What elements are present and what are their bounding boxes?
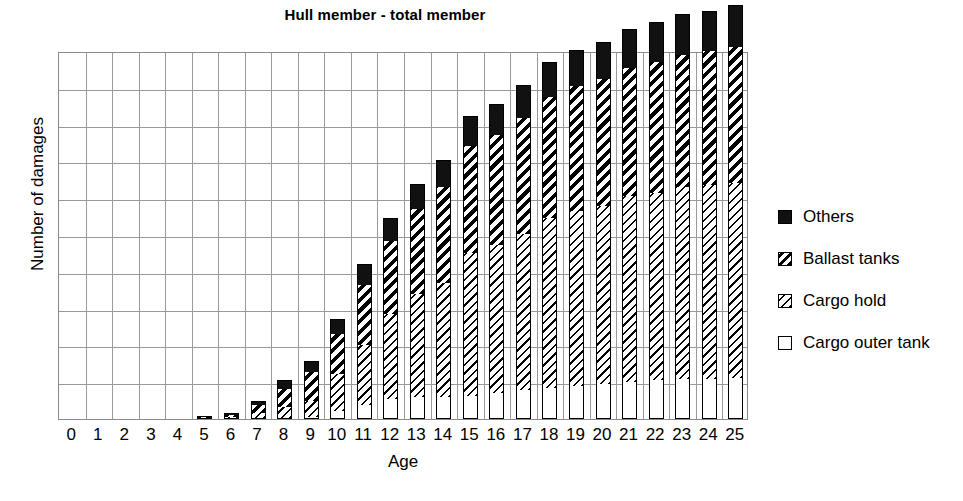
bar-segment-cargo-outer-tank: [463, 396, 478, 419]
bar-segment-cargo-hold: [251, 413, 266, 419]
legend-swatch-icon: [778, 336, 792, 350]
bar-age-8[interactable]: [277, 380, 292, 419]
bar-segment-others: [383, 218, 398, 241]
x-tick-label-0: 0: [58, 424, 85, 446]
bar-age-23[interactable]: [675, 14, 690, 419]
bar-segment-ballast-tanks: [383, 241, 398, 315]
plot-area: [58, 52, 748, 420]
bar-age-21[interactable]: [622, 29, 637, 419]
x-tick-label-2: 2: [111, 424, 138, 446]
bar-segment-cargo-outer-tank: [489, 393, 504, 419]
bar-segment-cargo-hold: [542, 218, 557, 387]
bar-segment-cargo-hold: [728, 183, 743, 378]
x-axis-tick-labels: 0123456789101112131415161718192021222324…: [58, 424, 748, 448]
bar-segment-ballast-tanks: [197, 417, 212, 418]
bar-segment-cargo-hold: [622, 196, 637, 382]
bar-age-15[interactable]: [463, 116, 478, 419]
legend-swatch-icon: [778, 210, 792, 224]
bar-segment-cargo-outer-tank: [728, 378, 743, 419]
bar-segment-cargo-hold: [596, 206, 611, 384]
x-axis-label: Age: [58, 452, 748, 472]
x-tick-label-11: 11: [350, 424, 377, 446]
x-tick-label-10: 10: [323, 424, 350, 446]
bar-age-12[interactable]: [383, 218, 398, 419]
bar-segment-cargo-hold: [277, 407, 292, 419]
bar-age-7[interactable]: [251, 401, 266, 419]
x-tick-label-19: 19: [562, 424, 589, 446]
chart-title: Hull member - total member: [0, 6, 770, 23]
bar-age-24[interactable]: [702, 11, 717, 419]
bar-age-20[interactable]: [596, 42, 611, 419]
bar-segment-others: [596, 42, 611, 79]
bar-segment-others: [569, 50, 584, 86]
bar-segment-others: [489, 104, 504, 135]
bar-segment-ballast-tanks: [357, 285, 372, 346]
bar-age-11[interactable]: [357, 264, 372, 419]
x-tick-label-1: 1: [85, 424, 112, 446]
bar-segment-cargo-outer-tank: [357, 405, 372, 419]
bar-age-6[interactable]: [224, 413, 239, 419]
bar-segment-cargo-outer-tank: [410, 397, 425, 419]
bar-age-10[interactable]: [330, 319, 345, 419]
bar-segment-others: [542, 62, 557, 97]
bar-age-18[interactable]: [542, 62, 557, 419]
legend-item-label: Ballast tanks: [803, 249, 899, 269]
legend-item-cargo-hold[interactable]: Cargo hold: [778, 280, 958, 322]
bar-segment-cargo-hold: [489, 245, 504, 392]
x-tick-label-18: 18: [536, 424, 563, 446]
legend-item-others[interactable]: Others: [778, 196, 958, 238]
bar-age-14[interactable]: [436, 160, 451, 419]
bar-segment-others: [277, 380, 292, 389]
bar-segment-ballast-tanks: [516, 118, 531, 234]
legend-swatch-icon: [778, 294, 792, 308]
x-tick-label-24: 24: [695, 424, 722, 446]
bar-segment-others: [410, 184, 425, 210]
x-tick-label-4: 4: [164, 424, 191, 446]
bar-age-13[interactable]: [410, 183, 425, 419]
x-tick-label-14: 14: [430, 424, 457, 446]
x-tick-label-7: 7: [244, 424, 271, 446]
bar-segment-ballast-tanks: [569, 86, 584, 211]
bar-age-5[interactable]: [197, 416, 212, 419]
bar-segment-cargo-outer-tank: [569, 386, 584, 419]
bar-segment-ballast-tanks: [596, 79, 611, 206]
bar-segment-others: [463, 116, 478, 146]
bar-segment-cargo-hold: [516, 234, 531, 390]
x-tick-label-17: 17: [509, 424, 536, 446]
bar-segment-ballast-tanks: [224, 415, 239, 417]
bar-age-25[interactable]: [728, 5, 743, 419]
legend-item-cargo-outer-tank[interactable]: Cargo outer tank: [778, 322, 958, 364]
bar-segment-cargo-outer-tank: [649, 380, 664, 419]
bar-segment-cargo-hold: [304, 401, 319, 418]
bar-segment-others: [728, 5, 743, 46]
bar-age-9[interactable]: [304, 361, 319, 419]
x-tick-label-21: 21: [615, 424, 642, 446]
bar-segment-cargo-outer-tank: [596, 384, 611, 419]
bar-segment-others: [330, 319, 345, 334]
bar-segment-others: [357, 264, 372, 284]
bar-segment-others: [649, 22, 664, 62]
bar-segment-cargo-outer-tank: [436, 397, 451, 419]
bar-segment-cargo-outer-tank: [304, 417, 319, 419]
legend-item-ballast-tanks[interactable]: Ballast tanks: [778, 238, 958, 280]
bar-age-19[interactable]: [569, 50, 584, 419]
bar-segment-cargo-hold: [383, 314, 398, 399]
bar-segment-cargo-hold: [702, 185, 717, 378]
legend-item-label: Others: [803, 207, 854, 227]
bar-segment-cargo-hold: [357, 345, 372, 405]
bar-segment-ballast-tanks: [251, 405, 266, 413]
bar-segment-ballast-tanks: [542, 97, 557, 218]
bar-segment-cargo-hold: [463, 253, 478, 397]
x-tick-label-13: 13: [403, 424, 430, 446]
bar-segment-ballast-tanks: [410, 209, 425, 294]
legend-swatch-icon: [778, 252, 792, 266]
bar-segment-ballast-tanks: [675, 55, 690, 187]
bar-age-16[interactable]: [489, 104, 504, 419]
bar-age-17[interactable]: [516, 85, 531, 419]
bar-segment-cargo-outer-tank: [542, 388, 557, 419]
x-tick-label-8: 8: [270, 424, 297, 446]
bar-segment-ballast-tanks: [728, 47, 743, 183]
bar-age-22[interactable]: [649, 22, 664, 419]
bar-segment-ballast-tanks: [702, 51, 717, 185]
bar-segment-cargo-hold: [569, 211, 584, 386]
